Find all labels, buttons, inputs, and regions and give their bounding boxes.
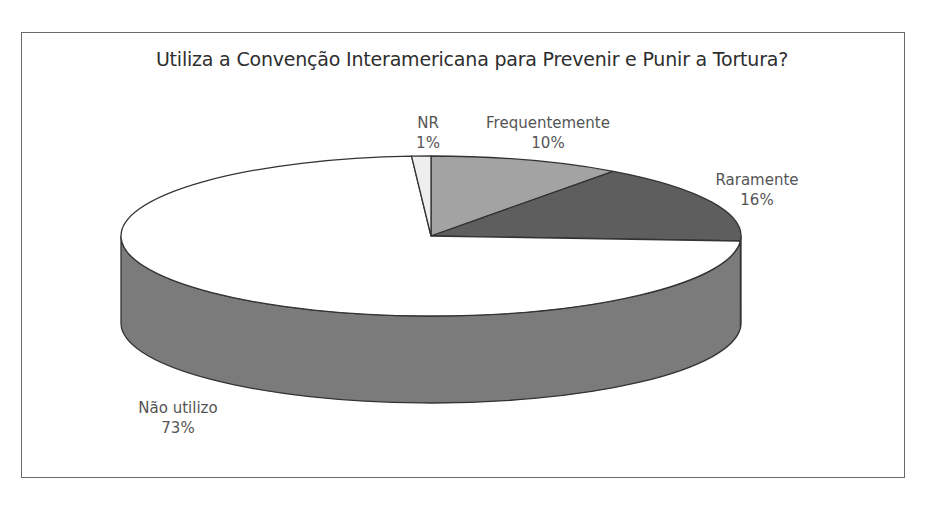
label-frequentemente-pct: 10% (486, 133, 610, 153)
label-nr-pct: 1% (416, 133, 440, 153)
label-nao-utilizo: Não utilizo 73% (138, 398, 217, 438)
label-raramente: Raramente 16% (715, 170, 798, 210)
label-nr: NR 1% (416, 113, 440, 153)
label-frequentemente-name: Frequentemente (486, 113, 610, 133)
label-nao-utilizo-name: Não utilizo (138, 398, 217, 418)
label-nr-name: NR (416, 113, 440, 133)
label-raramente-name: Raramente (715, 170, 798, 190)
pie-slices (121, 156, 741, 316)
label-nao-utilizo-pct: 73% (138, 418, 217, 438)
label-frequentemente: Frequentemente 10% (486, 113, 610, 153)
label-raramente-pct: 16% (715, 190, 798, 210)
